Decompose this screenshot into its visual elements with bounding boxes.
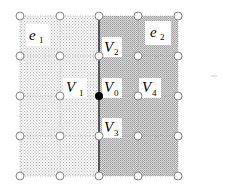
- svg-text:2: 2: [114, 47, 119, 57]
- svg-text:1: 1: [79, 88, 84, 98]
- svg-text:e: e: [29, 27, 36, 43]
- svg-text:e: e: [150, 24, 157, 40]
- svg-text:1: 1: [39, 35, 44, 45]
- svg-text:2: 2: [160, 32, 165, 42]
- mesh-diagram: e 1 e 2 V 2 V 1 V 0 V 4 V 3: [0, 0, 244, 193]
- svg-text:0: 0: [114, 88, 119, 98]
- svg-text:4: 4: [152, 88, 157, 98]
- vertex-v0-node: [95, 92, 103, 100]
- svg-text:3: 3: [114, 128, 119, 138]
